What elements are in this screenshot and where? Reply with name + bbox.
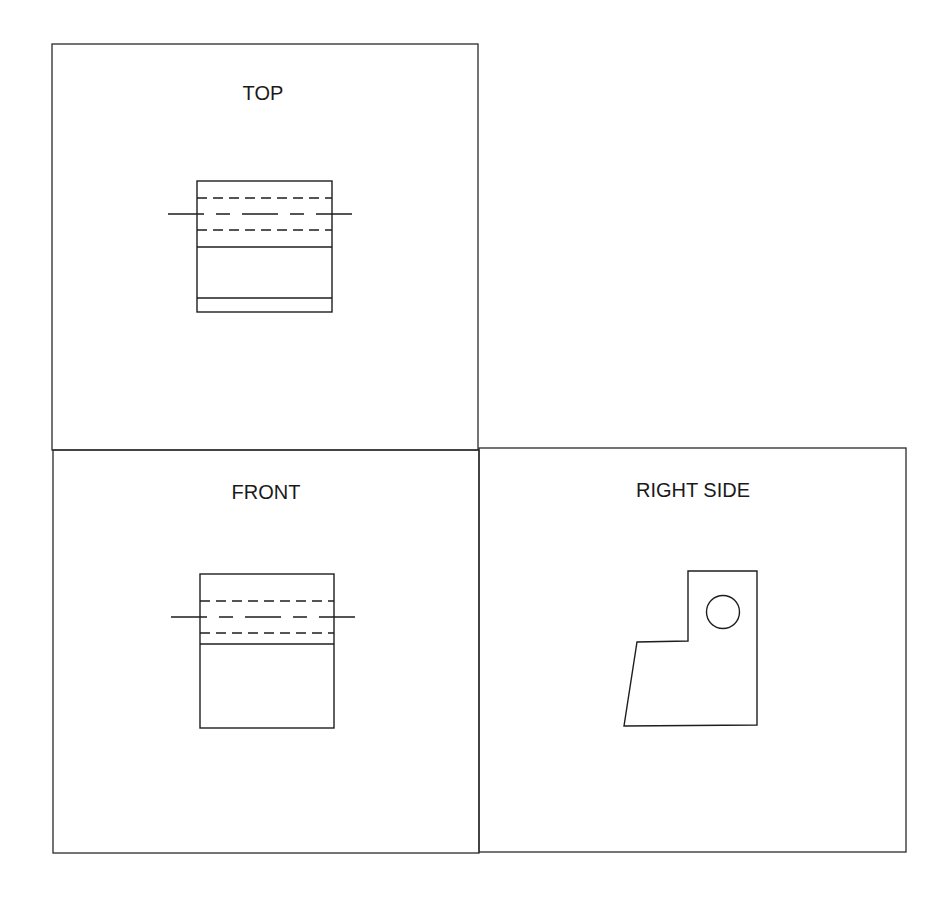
top-view-label: TOP <box>243 82 284 104</box>
right-side-profile <box>624 571 757 726</box>
view-frames <box>52 44 906 853</box>
right-side-view <box>624 571 757 726</box>
orthographic-drawing: TOP FRONT RIGHT SIDE <box>0 0 946 900</box>
right-view-frame <box>479 448 906 852</box>
right-view-label: RIGHT SIDE <box>636 479 750 501</box>
hole-circle <box>707 596 740 629</box>
front-view-frame <box>53 450 479 853</box>
front-view-outline <box>200 574 334 728</box>
front-view <box>171 574 364 728</box>
top-view <box>168 181 362 312</box>
front-view-label: FRONT <box>232 481 301 503</box>
